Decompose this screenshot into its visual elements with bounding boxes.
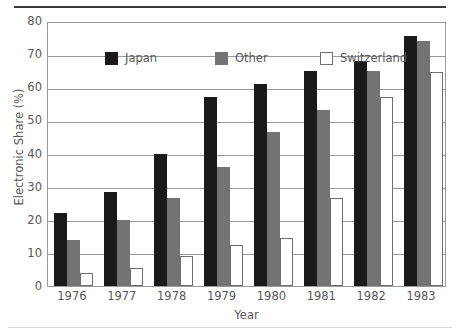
bar-switzerland-1982 [380, 97, 393, 286]
plot-area: JapanOtherSwitzerland [47, 22, 446, 287]
x-axis-tick-label: 1980 [247, 290, 297, 303]
x-axis-title: Year [47, 308, 446, 322]
x-axis-tick-label: 1983 [396, 290, 446, 303]
bar-japan-1983 [404, 36, 417, 286]
x-axis-tick-label: 1979 [197, 290, 247, 303]
bar-other-1981 [317, 110, 330, 286]
bar-switzerland-1980 [280, 238, 293, 286]
y-axis-tick-label: 20 [2, 215, 42, 227]
x-axis-tick-label: 1981 [296, 290, 346, 303]
bar-other-1983 [417, 41, 430, 286]
y-axis-tick-label: 50 [2, 115, 42, 127]
y-axis-tick-label: 0 [2, 281, 42, 293]
gridline [48, 89, 445, 90]
bar-switzerland-1981 [330, 198, 343, 286]
bar-switzerland-1978 [180, 256, 193, 286]
bar-japan-1978 [154, 154, 167, 287]
y-axis-tick-label: 30 [2, 182, 42, 194]
bar-japan-1977 [104, 192, 117, 286]
top-divider-rule [14, 6, 446, 8]
legend-swatch-switzerland-icon [320, 52, 333, 65]
bar-switzerland-1977 [130, 268, 143, 286]
legend-label: Switzerland [340, 52, 407, 65]
bar-switzerland-1983 [430, 72, 443, 286]
bar-japan-1979 [204, 97, 217, 286]
bar-switzerland-1976 [80, 273, 93, 286]
y-axis-tick-label: 10 [2, 248, 42, 260]
bar-other-1976 [67, 240, 80, 286]
y-axis-tick-label: 70 [2, 49, 42, 61]
x-axis-tick-label: 1977 [97, 290, 147, 303]
y-axis-tick-label: 80 [2, 16, 42, 28]
legend-label: Japan [125, 52, 157, 65]
x-axis-tick-labels: 19761977197819791980198119821983 [47, 290, 446, 306]
x-axis-tick-label: 1978 [147, 290, 197, 303]
x-axis-tick-label: 1976 [47, 290, 97, 303]
bar-switzerland-1979 [230, 245, 243, 286]
bar-chart-figure: Electronic Share (%) 01020304050607080 J… [0, 0, 460, 331]
bar-other-1979 [217, 167, 230, 286]
legend-swatch-other-icon [215, 52, 228, 65]
bar-other-1977 [117, 220, 130, 286]
y-axis-tick-label: 40 [2, 149, 42, 161]
bar-other-1982 [367, 71, 380, 286]
legend-item-other[interactable]: Other [215, 49, 268, 67]
bar-japan-1980 [254, 84, 267, 286]
bottom-divider-rule [8, 327, 452, 328]
bar-japan-1976 [54, 213, 67, 286]
bar-other-1980 [267, 132, 280, 286]
y-axis-tick-labels: 01020304050607080 [0, 22, 42, 287]
legend-item-switzerland[interactable]: Switzerland [320, 49, 407, 67]
x-axis-tick-label: 1982 [346, 290, 396, 303]
bar-japan-1982 [354, 61, 367, 286]
legend-item-japan[interactable]: Japan [105, 49, 157, 67]
bar-other-1978 [167, 198, 180, 286]
legend-swatch-japan-icon [105, 52, 118, 65]
y-axis-tick-label: 60 [2, 82, 42, 94]
bar-japan-1981 [304, 71, 317, 286]
legend-label: Other [235, 52, 268, 65]
